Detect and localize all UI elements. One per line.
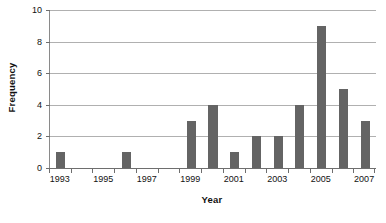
bar-2006 [339,89,348,168]
bar-1996 [122,152,131,168]
y-tick-label-0: 0 [37,163,42,173]
x-tickmark-15 [374,168,375,173]
x-tickmark-3 [114,168,115,173]
y-tick-label-4: 4 [37,100,42,110]
bar-1993 [56,152,65,168]
x-tick-label-2005: 2005 [311,174,331,184]
x-axis-title: Year [49,194,375,205]
bar-2007 [361,121,370,168]
bar-2000 [208,105,217,168]
x-tickmark-12 [310,168,311,173]
y-axis-title-label: Frequency [7,63,18,113]
bar-2003 [274,136,283,168]
x-tickmark-7 [201,168,202,173]
x-tickmark-8 [223,168,224,173]
bar-2001 [230,152,239,168]
y-axis-title: Frequency [0,0,24,175]
x-tick-label-2007: 2007 [354,174,374,184]
x-tickmark-11 [288,168,289,173]
x-tickmark-1 [71,168,72,173]
x-tickmark-4 [136,168,137,173]
x-tick-label-1993: 1993 [50,174,70,184]
bar-2002 [252,136,261,168]
x-axis-tick-labels: 19931995199719992001200320052007 [49,174,375,188]
plot-area [49,10,376,168]
x-tickmark-9 [245,168,246,173]
x-tick-label-2003: 2003 [267,174,287,184]
y-tick-label-10: 10 [32,5,42,15]
x-axis-tickmarks [49,168,375,173]
y-tick-label-2: 2 [37,131,42,141]
bars-layer [50,10,376,168]
x-tick-label-1999: 1999 [180,174,200,184]
x-tickmark-10 [266,168,267,173]
y-tick-label-6: 6 [37,68,42,78]
y-tick-label-8: 8 [37,37,42,47]
x-tick-label-1997: 1997 [137,174,157,184]
x-tickmark-6 [179,168,180,173]
x-tick-label-1995: 1995 [93,174,113,184]
x-tickmark-2 [92,168,93,173]
x-tickmark-13 [332,168,333,173]
x-tickmark-5 [158,168,159,173]
y-axis-tick-labels: 0246810 [24,10,46,168]
bar-chart: Frequency 0246810 1993199519971999200120… [0,0,386,223]
bar-1999 [187,121,196,168]
x-tick-label-2001: 2001 [224,174,244,184]
x-tickmark-0 [49,168,50,173]
x-tickmark-14 [353,168,354,173]
bar-2005 [317,26,326,168]
bar-2004 [295,105,304,168]
